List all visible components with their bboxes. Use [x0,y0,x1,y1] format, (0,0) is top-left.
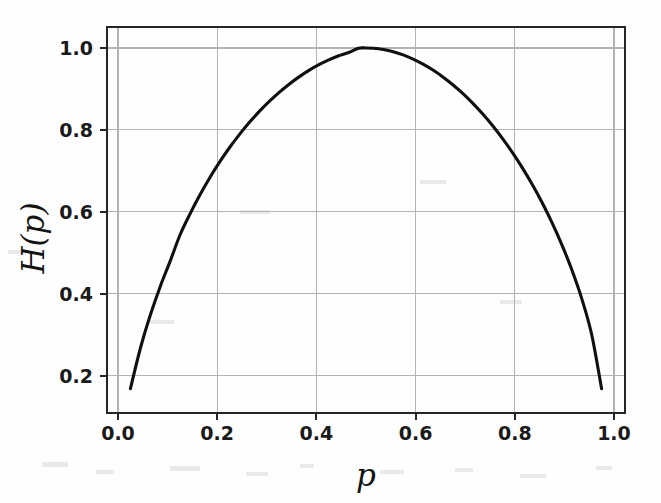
y-tick-label: 0.4 [59,283,93,305]
y-tick-label: 0.8 [59,119,93,141]
y-tick-label: 0.6 [59,201,93,223]
x-tick-label: 0.8 [498,422,532,444]
y-axis-label: H(p) [15,202,51,274]
entropy-line-chart: 0.00.20.40.60.81.0 0.20.40.60.81.0 p H(p… [0,0,661,503]
y-tick-label: 0.2 [59,365,93,387]
chart-figure: 0.00.20.40.60.81.0 0.20.40.60.81.0 p H(p… [0,0,661,503]
x-tick-label: 1.0 [597,422,631,444]
x-axis-label: p [356,457,376,493]
x-tick-label: 0.4 [300,422,334,444]
x-tick-label: 0.0 [101,422,135,444]
x-tick-label: 0.6 [399,422,433,444]
y-tick-label: 1.0 [59,37,93,59]
x-tick-label: 0.2 [200,422,234,444]
